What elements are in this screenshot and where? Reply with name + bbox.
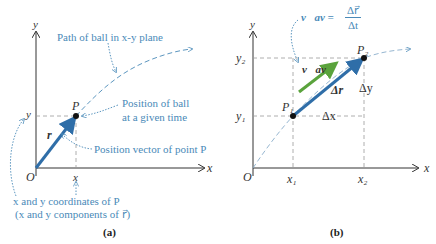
panel-b-y1-tick: y₁ bbox=[236, 110, 246, 122]
annotation-coords-1: x and y coordinates of P bbox=[13, 196, 120, 207]
panel-a-point-label: P bbox=[72, 100, 79, 112]
panel-b-origin-label: O bbox=[243, 171, 252, 183]
annotation-coords-2: (x and y components of r⃗) bbox=[15, 209, 130, 220]
panel-a-origin-label: O bbox=[26, 171, 35, 183]
panel-b-x-axis-label: x bbox=[424, 162, 429, 174]
annotation-vector: Position vector of point P bbox=[94, 144, 206, 155]
panel-b-x2-tick: x₂ bbox=[358, 173, 368, 185]
panel-b-delta-x-label: Δx bbox=[322, 110, 336, 122]
panel-a-x-tick: x bbox=[73, 172, 78, 183]
annotation-position-2: at a given time bbox=[122, 112, 187, 123]
panel-a-vector-label: r⃗ bbox=[47, 129, 61, 141]
panel-a-caption: (a) bbox=[103, 227, 116, 238]
panel-b-vav-label: v⃗av bbox=[302, 64, 326, 75]
formula-denominator: Δt bbox=[348, 20, 358, 31]
panel-b-x1-tick: x₁ bbox=[287, 173, 297, 185]
panel-a-y-axis-label: y bbox=[33, 19, 38, 30]
formula-numerator: Δr⃗ bbox=[345, 5, 361, 18]
panel-b-point1-label: P₁ bbox=[282, 101, 294, 113]
annotation-position-1: Position of ball bbox=[122, 98, 189, 109]
panel-b-point2-label: P₂ bbox=[357, 44, 369, 56]
panel-b-axes bbox=[253, 32, 418, 176]
panel-b-y-axis-label: y bbox=[250, 19, 255, 30]
formula-lhs: v⃗av = bbox=[301, 12, 334, 23]
panel-a-y-tick: y bbox=[26, 109, 31, 120]
panel-b-y2-tick: y₂ bbox=[236, 52, 246, 64]
panel-b-delta-r-label: Δr⃗ bbox=[331, 84, 353, 96]
panel-b-caption: (b) bbox=[330, 227, 343, 238]
panel-a-x-axis-label: x bbox=[207, 162, 212, 174]
panel-b-delta-y-label: Δy bbox=[359, 82, 373, 94]
annotation-path: Path of ball in x-y plane bbox=[57, 32, 163, 43]
panel-a-point-p bbox=[73, 113, 79, 119]
